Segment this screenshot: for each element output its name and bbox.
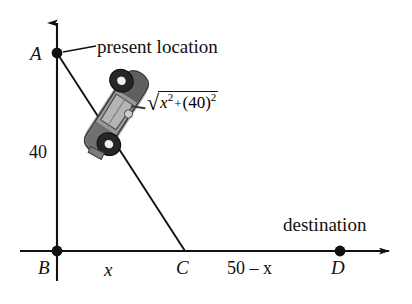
radical-sign: √ (147, 92, 159, 114)
diagram-canvas: A B C D x 50 – x 40 present location des… (0, 0, 412, 304)
formula-exponent-2: 2 (211, 91, 217, 103)
segment-label-ab: 40 (29, 143, 47, 161)
segment-label-cd: 50 – x (227, 259, 272, 277)
point-label-b: B (38, 258, 50, 277)
point-a-dot[interactable] (52, 48, 63, 59)
annotation-present-location: present location (97, 37, 218, 56)
segment-label-bc: x (104, 260, 112, 279)
radicand-expression: x2+(40)2 (158, 91, 218, 113)
point-label-c: C (176, 258, 189, 277)
annotation-destination: destination (283, 215, 366, 234)
point-label-a: A (30, 44, 42, 63)
formula-variable: x (160, 93, 168, 112)
leader-line-present-location (63, 46, 96, 52)
point-d-dot[interactable] (335, 246, 346, 257)
formula-constant: 40 (188, 93, 205, 112)
point-label-d: D (331, 258, 345, 277)
point-b-dot[interactable] (52, 246, 63, 257)
hypotenuse-formula: √x2+(40)2 (147, 91, 218, 114)
